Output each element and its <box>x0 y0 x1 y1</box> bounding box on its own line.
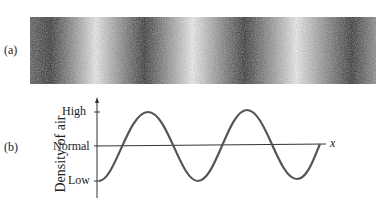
x-axis <box>94 144 326 146</box>
y-axis-arrow-icon <box>95 97 99 103</box>
density-wave-plot <box>0 0 384 201</box>
